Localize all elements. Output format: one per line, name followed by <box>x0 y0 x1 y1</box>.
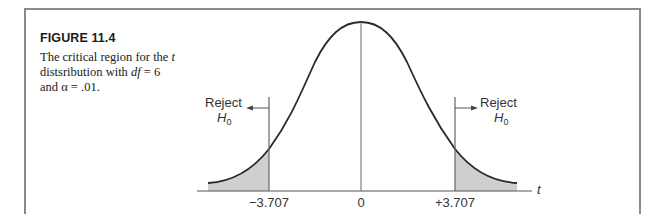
left-arrow-icon <box>246 106 253 111</box>
left-reject-label: Reject <box>205 95 242 110</box>
tick-label-right: +3.707 <box>435 195 475 210</box>
t-distribution-curve <box>208 22 517 183</box>
left-critical-region <box>208 149 269 191</box>
tick-label-zero: 0 <box>357 195 364 210</box>
axis-variable-t: t <box>537 182 542 197</box>
left-h0-label: H0 <box>217 110 231 127</box>
right-reject-label: Reject <box>480 95 517 110</box>
right-arrow-icon <box>471 106 478 111</box>
tick-label-left: −3.707 <box>249 195 289 210</box>
right-h0-label: H0 <box>494 110 508 127</box>
right-critical-region <box>455 149 517 191</box>
t-distribution-plot: Reject H0 Reject H0 −3.707 0 +3.707 t <box>0 0 665 214</box>
